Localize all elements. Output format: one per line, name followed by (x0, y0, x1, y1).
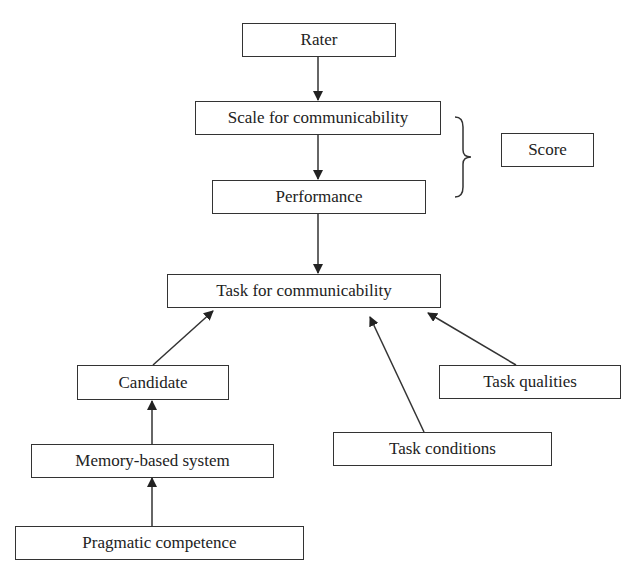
node-rater: Rater (242, 23, 396, 57)
node-task-conditions: Task conditions (333, 432, 552, 466)
arrow-qualities-to-task (428, 313, 516, 365)
arrow-candidate-to-task (153, 311, 213, 365)
node-score: Score (501, 133, 594, 167)
node-task-for-communicability: Task for communicability (167, 274, 441, 308)
node-performance: Performance (212, 180, 426, 214)
brace-icon (455, 117, 471, 197)
node-candidate: Candidate (77, 365, 229, 400)
node-task-qualities: Task qualities (439, 365, 621, 399)
arrow-conditions-to-task (370, 317, 424, 432)
node-pragmatic-competence: Pragmatic competence (15, 526, 304, 560)
node-scale-for-communicability: Scale for communicability (195, 101, 441, 135)
node-memory-based-system: Memory-based system (31, 444, 274, 478)
